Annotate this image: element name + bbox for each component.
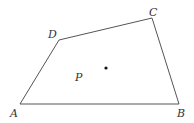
quadrilateral-abcd: [20, 18, 179, 104]
vertex-label-d: D: [47, 28, 57, 41]
vertex-label-b: B: [176, 107, 185, 120]
quadrilateral-diagram: A B C D P: [0, 0, 194, 123]
point-p-dot: [104, 66, 107, 69]
point-label-p: P: [74, 71, 83, 84]
vertex-label-a: A: [9, 107, 18, 120]
vertex-label-c: C: [149, 6, 158, 19]
